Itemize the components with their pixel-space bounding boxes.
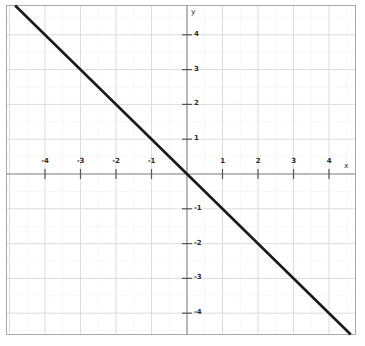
x-tick-label: 3 [284,158,304,165]
x-tick-label: -3 [71,158,91,165]
y-tick-label: 3 [194,66,210,73]
y-tick-label: -3 [194,274,210,281]
x-tick-label: 4 [319,158,339,165]
graph-canvas [0,0,365,346]
y-tick-label: 4 [194,31,210,38]
x-tick-label: 1 [213,158,233,165]
y-axis-label: y [191,8,195,16]
y-tick-label: -1 [194,205,210,212]
y-tick-label: 2 [194,100,210,107]
x-tick-label: -4 [35,158,55,165]
y-tick-label: -2 [194,240,210,247]
x-tick-label: -1 [142,158,162,165]
coordinate-graph-figure: -4-3-2-112344321-1-2-3-4 y x [0,0,365,346]
x-axis-label: x [344,162,348,170]
y-tick-label: -4 [194,309,210,316]
x-tick-label: 2 [248,158,268,165]
y-tick-label: 1 [194,135,210,142]
x-tick-label: -2 [106,158,126,165]
